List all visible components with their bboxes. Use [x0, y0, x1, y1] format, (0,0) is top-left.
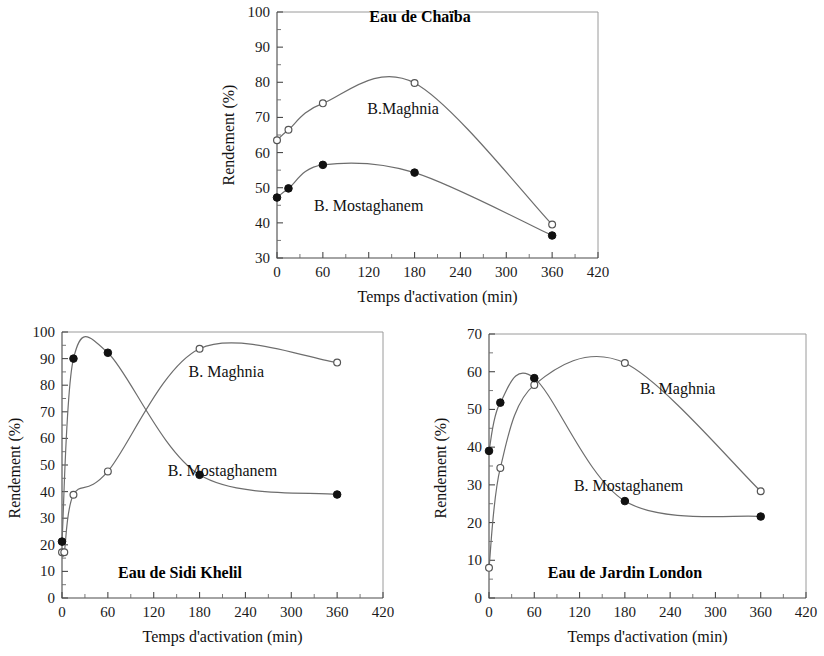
series-label-mostaghanem-jardin-london: B. Mostaghanem: [574, 477, 684, 495]
y-tick-label: 60: [467, 364, 482, 380]
series-label-maghnia-chaiba: B.Maghnia: [367, 100, 439, 118]
plot-frame-jardin-london: [489, 334, 806, 598]
x-tick-label: 120: [568, 604, 591, 620]
y-axis-title-sidi-khelil: Rendement (%): [6, 418, 24, 519]
chart-svg-sidi-khelil: 0102030405060708090100060120180240300360…: [0, 318, 410, 656]
panel-title-sidi-khelil: Eau de Sidi Khelil: [118, 564, 243, 581]
data-point-filled: [70, 355, 78, 363]
x-tick-label: 300: [280, 604, 303, 620]
axis-ticks-jardin-london: [489, 334, 806, 598]
y-tick-label: 20: [40, 537, 55, 553]
data-point-open: [61, 549, 68, 556]
x-tick-label: 0: [58, 604, 66, 620]
data-point-open: [319, 100, 326, 107]
y-tick-label: 30: [255, 250, 270, 266]
data-point-open: [196, 345, 203, 352]
x-axis-title-sidi-khelil: Temps d'activation (min): [143, 628, 303, 646]
x-tick-label: 300: [495, 264, 518, 280]
x-tick-label: 0: [485, 604, 493, 620]
x-tick-label: 180: [614, 604, 637, 620]
y-tick-label: 10: [40, 563, 55, 579]
chart-svg-chaiba: 30405060708090100060120180240300360420 E…: [210, 0, 630, 300]
y-tick-label: 50: [255, 180, 270, 196]
chart-panel-chaiba: 30405060708090100060120180240300360420 E…: [210, 0, 630, 300]
series-label-mostaghanem-sidi-khelil: B. Mostaghanem: [168, 462, 278, 480]
y-tick-label: 30: [467, 477, 482, 493]
x-tick-label: 360: [541, 264, 564, 280]
x-tick-label: 360: [749, 604, 772, 620]
y-tick-label: 100: [248, 4, 271, 20]
chart-svg-jardin-london: 010203040506070060120180240300360420 Eau…: [420, 318, 824, 656]
y-tick-label: 40: [40, 484, 55, 500]
x-tick-label: 0: [273, 264, 281, 280]
data-point-filled: [411, 169, 419, 177]
x-tick-label: 120: [357, 264, 380, 280]
data-point-filled: [58, 538, 66, 546]
y-tick-label: 10: [467, 552, 482, 568]
y-tick-label: 70: [467, 326, 482, 342]
data-point-open: [549, 221, 556, 228]
x-tick-label: 300: [704, 604, 727, 620]
x-tick-label: 420: [587, 264, 610, 280]
data-series-jardin-london: [485, 357, 764, 572]
y-tick-label: 50: [467, 401, 482, 417]
series-label-mostaghanem-chaiba: B. Mostaghanem: [314, 197, 424, 215]
chart-panel-sidi-khelil: 0102030405060708090100060120180240300360…: [0, 318, 410, 656]
data-point-filled: [548, 232, 556, 240]
x-tick-label: 360: [326, 604, 349, 620]
x-tick-label: 240: [234, 604, 257, 620]
y-axis-title-jardin-london: Rendement (%): [432, 418, 450, 519]
data-point-filled: [757, 513, 765, 521]
figure-root: 30405060708090100060120180240300360420 E…: [0, 0, 824, 656]
x-tick-label: 180: [403, 264, 426, 280]
data-point-open: [531, 382, 538, 389]
axis-ticks-chaiba: [277, 12, 598, 258]
y-tick-label: 80: [40, 377, 55, 393]
y-tick-label: 90: [40, 351, 55, 367]
y-tick-label: 100: [33, 324, 56, 340]
data-point-open: [104, 468, 111, 475]
y-tick-label: 60: [255, 145, 270, 161]
series-label-maghnia-jardin-london: B. Maghnia: [640, 380, 716, 398]
data-point-filled: [319, 161, 327, 169]
y-tick-label: 40: [467, 439, 482, 455]
series-label-maghnia-sidi-khelil: B. Maghnia: [189, 363, 265, 381]
y-tick-label: 80: [255, 74, 270, 90]
x-tick-label: 420: [795, 604, 818, 620]
x-tick-label: 180: [188, 604, 211, 620]
plot-frame-chaiba: [277, 12, 598, 258]
panel-title-jardin-london: Eau de Jardin London: [548, 564, 702, 581]
data-point-filled: [104, 349, 112, 357]
data-point-open: [497, 464, 504, 471]
y-tick-label: 40: [255, 215, 270, 231]
data-point-open: [70, 491, 77, 498]
y-tick-label: 60: [40, 430, 55, 446]
data-point-open: [621, 360, 628, 367]
y-axis-title-chaiba: Rendement (%): [220, 85, 238, 186]
data-point-filled: [285, 185, 293, 193]
x-tick-label: 60: [527, 604, 542, 620]
data-point-filled: [485, 447, 493, 455]
x-tick-label: 120: [142, 604, 165, 620]
data-point-open: [334, 359, 341, 366]
data-point-filled: [333, 491, 341, 499]
data-point-filled: [273, 194, 281, 202]
y-tick-label: 50: [40, 457, 55, 473]
x-tick-label: 420: [372, 604, 395, 620]
series-curve: [489, 357, 761, 568]
data-point-open: [274, 137, 281, 144]
x-axis-title-chaiba: Temps d'activation (min): [358, 288, 518, 306]
y-tick-label: 0: [48, 590, 56, 606]
chart-panel-jardin-london: 010203040506070060120180240300360420 Eau…: [420, 318, 824, 656]
data-point-open: [411, 80, 418, 87]
y-tick-label: 20: [467, 515, 482, 531]
y-tick-label: 0: [475, 590, 483, 606]
y-tick-label: 70: [255, 109, 270, 125]
y-tick-label: 30: [40, 510, 55, 526]
x-axis-title-jardin-london: Temps d'activation (min): [568, 628, 728, 646]
data-point-filled: [497, 399, 505, 407]
series-curve: [489, 373, 761, 516]
data-point-open: [285, 126, 292, 133]
y-tick-label: 90: [255, 39, 270, 55]
x-tick-label: 240: [659, 604, 682, 620]
